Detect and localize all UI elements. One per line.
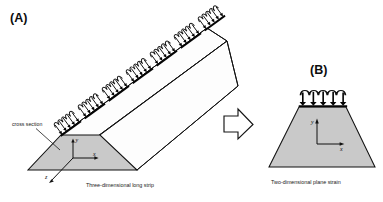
panel-b-caption: Two-dimensional plane strain <box>271 179 341 185</box>
axis-z-arrowhead <box>49 179 54 183</box>
figure-canvas: (A) <box>0 0 383 202</box>
axis-x-label: x <box>92 151 96 157</box>
panel-b-letter: (B) <box>310 63 327 77</box>
axis-z-label: z <box>44 174 48 180</box>
figure-root: (A) <box>0 0 383 202</box>
panel-a-caption: Three-dimensional long strip <box>86 182 154 188</box>
axis-y-label: y <box>75 137 79 143</box>
load-set-7 <box>196 4 225 30</box>
distributed-load-2d <box>299 90 347 106</box>
transition-arrow <box>224 109 253 139</box>
axis-y-label-2d: y <box>310 119 314 125</box>
block-arrow-right-icon <box>224 109 253 139</box>
panel-b: (B) y x Two-dimensional plane strain <box>269 63 375 185</box>
plane-strain-section <box>269 107 375 167</box>
panel-a: (A) <box>10 4 238 188</box>
cross-section-label: cross section <box>12 121 42 127</box>
axis-x-label-2d: x <box>339 146 343 152</box>
panel-a-letter: (A) <box>10 11 27 25</box>
